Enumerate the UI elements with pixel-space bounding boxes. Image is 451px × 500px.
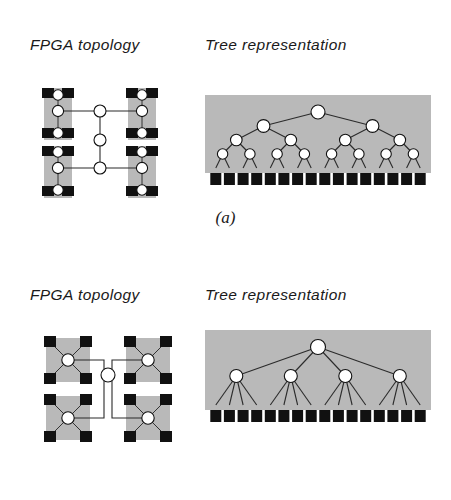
tree-leaf xyxy=(319,173,330,185)
cluster-block-br-4 xyxy=(146,186,158,196)
xcluster-block-tr-3 xyxy=(124,373,136,384)
cluster-block-bl-2 xyxy=(62,146,74,156)
panel-a-tree-representation xyxy=(205,95,431,185)
tree-leaf xyxy=(210,173,221,185)
xcluster-block-tl-2 xyxy=(80,336,92,347)
panel-a-fpga-topology xyxy=(42,88,158,198)
tree-node xyxy=(311,105,325,119)
cluster-block-br-1 xyxy=(126,146,138,156)
cluster-node-tl-1 xyxy=(53,90,63,100)
cluster-block-tr-3 xyxy=(126,128,138,138)
tree-node xyxy=(285,134,297,146)
tree-leaf xyxy=(224,173,235,185)
tree-leaf xyxy=(333,173,344,185)
tree-leaf xyxy=(278,410,289,422)
tree-leaf xyxy=(306,173,317,185)
xcluster-block-tl-1 xyxy=(44,336,56,347)
cluster-block-br-3 xyxy=(126,186,138,196)
tree-node xyxy=(230,370,243,383)
cluster-node-br-1 xyxy=(137,147,147,157)
router-node-a-2 xyxy=(94,134,106,146)
cluster-node-br-3 xyxy=(137,185,147,195)
tree-node xyxy=(393,370,406,383)
xcluster-block-tl-4 xyxy=(80,373,92,384)
tree-leaf xyxy=(360,410,371,422)
tree-node xyxy=(257,120,270,133)
tree-leaf xyxy=(238,410,249,422)
tree-leaf xyxy=(415,173,426,185)
xcluster-block-tr-4 xyxy=(160,373,172,384)
cluster-node-tl-2 xyxy=(52,105,63,116)
xcluster-block-tl-3 xyxy=(44,373,56,384)
tree-node xyxy=(408,149,418,159)
cluster-node-br-2 xyxy=(136,162,147,173)
cluster-block-tl-3 xyxy=(42,128,54,138)
tree-leaf xyxy=(306,410,317,422)
tree-node xyxy=(366,120,379,133)
tree-leaf xyxy=(265,410,276,422)
xcluster-node-br xyxy=(142,412,154,424)
xcluster-block-tr-2 xyxy=(160,336,172,347)
figure-panel-a: FPGA topology Tree representation xyxy=(0,0,451,250)
xcluster-block-br-2 xyxy=(160,394,172,405)
cluster-node-bl-3 xyxy=(53,185,63,195)
xcluster-block-tr-1 xyxy=(124,336,136,347)
cluster-block-bl-3 xyxy=(42,186,54,196)
tree-leaf xyxy=(347,173,358,185)
xcluster-block-bl-2 xyxy=(80,394,92,405)
cluster-node-tl-3 xyxy=(53,128,63,138)
cluster-block-tr-1 xyxy=(126,88,138,98)
tree-leaf xyxy=(401,410,412,422)
tree-node xyxy=(245,149,255,159)
cluster-block-bl-1 xyxy=(42,146,54,156)
tree-leaf xyxy=(374,410,385,422)
tree-leaf xyxy=(374,173,385,185)
cluster-node-tr-1 xyxy=(137,90,147,100)
tree-leaf xyxy=(319,410,330,422)
tree-leaf xyxy=(224,410,235,422)
xcluster-node-tl xyxy=(62,354,74,366)
tree-node xyxy=(272,149,282,159)
xcluster-block-br-3 xyxy=(124,431,136,442)
tree-a-leaves xyxy=(210,173,425,185)
xcluster-block-bl-4 xyxy=(80,431,92,442)
cluster-node-tr-3 xyxy=(137,128,147,138)
cluster-block-bl-4 xyxy=(62,186,74,196)
tree-leaf xyxy=(210,410,221,422)
figure-panel-b: FPGA topology Tree representation xyxy=(0,250,451,500)
tree-leaf xyxy=(251,173,262,185)
tree-leaf xyxy=(333,410,344,422)
tree-leaf xyxy=(251,410,262,422)
cluster-block-tl-2 xyxy=(62,88,74,98)
tree-leaf xyxy=(347,410,358,422)
cluster-block-tr-2 xyxy=(146,88,158,98)
tree-leaf xyxy=(278,173,289,185)
tree-node xyxy=(284,370,297,383)
cluster-block-tl-4 xyxy=(62,128,74,138)
xcluster-node-tr xyxy=(142,354,154,366)
cluster-block-tl-1 xyxy=(42,88,54,98)
tree-leaf xyxy=(292,173,303,185)
tree-node xyxy=(326,149,336,159)
cluster-block-tr-4 xyxy=(146,128,158,138)
tree-leaf xyxy=(238,173,249,185)
tree-node xyxy=(381,149,391,159)
tree-leaf xyxy=(387,410,398,422)
tree-node xyxy=(311,340,326,355)
figure-container: FPGA topology Tree representation xyxy=(0,0,451,500)
tree-node xyxy=(340,134,352,146)
cluster-node-tr-2 xyxy=(136,105,147,116)
cluster-node-bl-2 xyxy=(52,162,63,173)
tree-leaf xyxy=(401,173,412,185)
xcluster-block-br-1 xyxy=(124,394,136,405)
cluster-block-br-2 xyxy=(146,146,158,156)
tree-leaf xyxy=(265,173,276,185)
tree-node xyxy=(394,134,406,146)
tree-node xyxy=(354,149,364,159)
xcluster-block-bl-1 xyxy=(44,394,56,405)
tree-node xyxy=(231,134,243,146)
tree-b-leaves xyxy=(210,410,425,422)
tree-leaf xyxy=(292,410,303,422)
xcluster-block-br-4 xyxy=(160,431,172,442)
xcluster-node-bl xyxy=(62,412,74,424)
